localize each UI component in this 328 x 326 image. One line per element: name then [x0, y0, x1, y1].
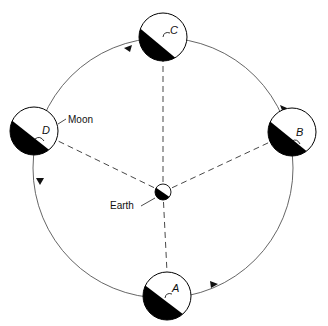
moon-c: C — [130, 13, 190, 70]
earth — [152, 184, 174, 200]
arrow-icon — [36, 178, 44, 185]
moon-b: B — [262, 108, 320, 162]
moon-a: A — [138, 272, 196, 324]
svg-text:C: C — [170, 24, 178, 36]
moon-orbit-diagram: C D Moon B A Earth — [0, 0, 328, 326]
orbit-arrows — [36, 45, 287, 288]
moon-d: D — [5, 107, 62, 160]
svg-text:D: D — [42, 124, 50, 136]
arrow-icon — [124, 45, 132, 52]
sight-lines — [56, 61, 270, 272]
earth-label: Earth — [110, 200, 134, 211]
svg-text:B: B — [296, 126, 303, 138]
svg-text:A: A — [171, 282, 179, 294]
moon-label: Moon — [68, 114, 93, 125]
moon-leader-line — [58, 119, 66, 124]
earth-leader-line — [141, 198, 155, 206]
arrow-icon — [210, 281, 218, 288]
